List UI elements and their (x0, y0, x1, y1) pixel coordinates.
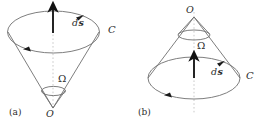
curve-direction-arrow-b-bottom (164, 93, 172, 98)
curve-direction-arrow-a-bottom (23, 47, 31, 52)
panel-b: O Ω d s C (b) (138, 4, 254, 117)
label-vertex-o-a: O (46, 108, 54, 119)
label-ds-b-vector: s (218, 66, 224, 77)
cone-slant-left-b (148, 17, 194, 78)
label-vertex-o-b: O (186, 4, 194, 15)
caption-b: (b) (138, 107, 151, 117)
panel-a: d s C Ω O (a) (8, 6, 117, 119)
solid-angle-ellipse-a (42, 86, 66, 95)
caption-a: (a) (9, 107, 21, 117)
label-solid-angle-a: Ω (58, 73, 66, 84)
label-ds-b: d (211, 66, 217, 77)
label-ds-a-vector: s (79, 17, 85, 28)
label-curve-c-a: C (108, 24, 116, 35)
label-ds-a: d (72, 17, 78, 28)
solid-angle-cone-figure: d s C Ω O (a) O Ω d s C (b) (0, 0, 257, 121)
solid-angle-slant-right-b (194, 17, 210, 34)
label-curve-c-b: C (246, 70, 254, 81)
label-solid-angle-b: Ω (197, 40, 205, 51)
solid-angle-slant-right-a (53, 90, 65, 108)
solid-angle-slant-left-a (42, 90, 53, 108)
solid-angle-slant-left-b (178, 17, 194, 34)
